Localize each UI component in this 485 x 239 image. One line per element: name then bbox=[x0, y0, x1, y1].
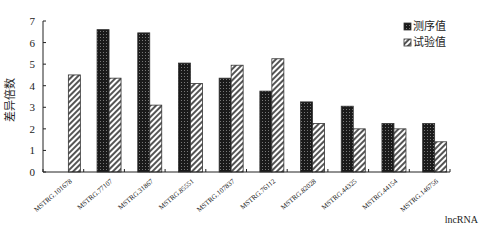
y-axis: 01234567 bbox=[30, 15, 47, 178]
legend-swatch bbox=[404, 39, 411, 46]
x-tick-label: MSTRG.76112 bbox=[239, 177, 278, 211]
x-axis-title: lncRNA bbox=[445, 214, 479, 225]
bar-experiment bbox=[68, 75, 80, 172]
legend-label: 测序值 bbox=[413, 19, 446, 33]
bar-experiment bbox=[272, 59, 284, 172]
y-tick-label: 7 bbox=[30, 15, 36, 27]
bar-sequencing bbox=[97, 30, 109, 172]
bar-sequencing bbox=[260, 91, 272, 172]
bar-experiment bbox=[231, 65, 243, 172]
x-tick-label: MSTRG.77107 bbox=[76, 177, 115, 211]
y-tick-label: 6 bbox=[30, 37, 36, 49]
bar-experiment bbox=[353, 129, 365, 172]
x-tick-label: MSTRG.82028 bbox=[279, 177, 318, 211]
bar-sequencing bbox=[301, 102, 313, 172]
bar-sequencing bbox=[219, 78, 231, 172]
bar-chart: 01234567 MSTRG.101678MSTRG.77107MSTRG.31… bbox=[0, 0, 485, 239]
legend-swatch bbox=[404, 23, 411, 30]
y-tick-label: 0 bbox=[30, 166, 36, 178]
bar-sequencing bbox=[138, 33, 150, 172]
x-tick-label: MSTRG.107837 bbox=[195, 177, 236, 214]
x-tick-label: MSTRG.146756 bbox=[399, 177, 440, 214]
y-tick-label: 1 bbox=[30, 144, 36, 156]
y-tick-label: 2 bbox=[30, 123, 36, 135]
y-tick-label: 3 bbox=[30, 101, 36, 113]
bar-experiment bbox=[109, 78, 121, 172]
bar-experiment bbox=[394, 129, 406, 172]
bar-sequencing bbox=[382, 123, 394, 172]
bar-experiment bbox=[435, 142, 447, 172]
bar-experiment bbox=[313, 123, 325, 172]
bar-sequencing bbox=[178, 63, 190, 172]
x-axis: MSTRG.101678MSTRG.77107MSTRG.31867MSTRG.… bbox=[33, 169, 450, 214]
y-axis-title: 差异倍数 bbox=[3, 78, 17, 122]
bars bbox=[68, 30, 446, 172]
y-tick-label: 5 bbox=[30, 58, 36, 70]
bar-sequencing bbox=[423, 123, 435, 172]
legend: 测序值试验值 bbox=[404, 19, 446, 49]
x-tick-label: MSTRG.31867 bbox=[117, 177, 156, 211]
x-tick-label: MSTRG.44154 bbox=[361, 177, 400, 211]
bar-experiment bbox=[150, 105, 162, 172]
bar-experiment bbox=[190, 84, 202, 172]
legend-label: 试验值 bbox=[413, 35, 446, 49]
x-tick-label: MSTRG.44325 bbox=[320, 177, 359, 211]
x-tick-label: MSTRG.85551 bbox=[157, 177, 196, 211]
x-tick-label: MSTRG.101678 bbox=[33, 177, 74, 214]
bar-sequencing bbox=[341, 106, 353, 172]
y-tick-label: 4 bbox=[30, 80, 36, 92]
